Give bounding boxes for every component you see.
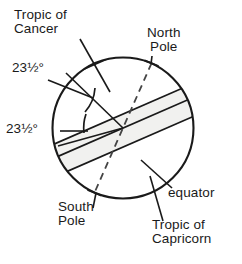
label-angle-upper-23-5-degrees: 23½° [12, 61, 44, 75]
label-tropic-of-cancer-line1: Tropic of [14, 8, 67, 22]
label-tropic-of-cancer: Tropic of Cancer [14, 8, 67, 36]
earth-tilt-diagram: Tropic of Cancer North Pole 23½° 23½° eq… [0, 0, 242, 264]
label-north-pole: North Pole [147, 26, 181, 54]
radial-ray-upper [66, 73, 123, 128]
leader-line-tropic-capricorn [150, 176, 163, 221]
leader-line-north-pole [151, 56, 152, 64]
label-equator: equator [168, 186, 215, 200]
leader-line-angle-upper [48, 80, 93, 98]
label-tropic-of-capricorn: Tropic of Capricorn [152, 218, 211, 246]
leader-line-equator [141, 160, 172, 188]
label-north-pole-line1: North [147, 26, 181, 40]
label-south-pole: South Pole [58, 200, 94, 228]
label-south-pole-line1: South [58, 200, 94, 214]
south-pole-tick [88, 190, 102, 196]
label-north-pole-line2: Pole [147, 40, 181, 54]
label-tropic-of-cancer-line2: Cancer [14, 22, 67, 36]
label-tropic-of-capricorn-line1: Tropic of [152, 218, 211, 232]
label-angle-lower-23-5-degrees: 23½° [6, 122, 38, 136]
label-south-pole-line2: Pole [58, 214, 94, 228]
leader-line-tropic-cancer [80, 39, 110, 92]
label-tropic-of-capricorn-line2: Capricorn [152, 232, 211, 246]
